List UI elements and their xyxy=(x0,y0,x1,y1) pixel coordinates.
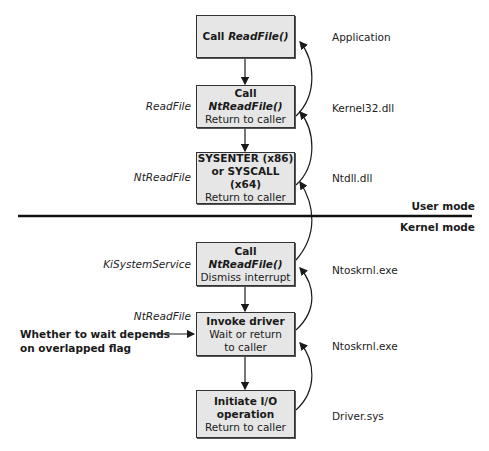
box-call-ntreadfile-user: Call NtReadFile() Return to caller xyxy=(196,85,295,128)
label-ntoskrnl-2: Ntoskrnl.exe xyxy=(332,340,398,352)
label-application: Application xyxy=(332,31,391,43)
label-driver-sys: Driver.sys xyxy=(332,410,384,422)
label-ntoskrnl-1: Ntoskrnl.exe xyxy=(332,264,398,276)
label-readfile: ReadFile xyxy=(146,100,191,112)
return-arrow-3 xyxy=(296,182,312,260)
label-kisystemservice: KiSystemService xyxy=(103,258,191,270)
return-arrow-2 xyxy=(296,112,312,185)
return-arrow-5 xyxy=(296,343,312,410)
box-invoke-driver: Invoke driver Wait or return to caller xyxy=(196,312,295,356)
label-ntreadfile-kernel: NtReadFile xyxy=(134,310,191,322)
return-arrow-1 xyxy=(296,42,312,116)
label-kernel32: Kernel32.dll xyxy=(332,102,394,114)
box-call-readfile: Call ReadFile() xyxy=(196,15,295,58)
label-ntdll: Ntdll.dll xyxy=(332,172,372,184)
label-kernel-mode: Kernel mode xyxy=(400,221,475,233)
note-overlapped-flag: Whether to wait depends on overlapped fl… xyxy=(20,327,170,355)
box-initiate-io: Initiate I/O operation Return to caller xyxy=(196,390,295,438)
box-sysenter: SYSENTER (x86) or SYSCALL (x64) Return t… xyxy=(196,152,295,204)
label-user-mode: User mode xyxy=(411,200,475,212)
label-ntreadfile-user: NtReadFile xyxy=(134,171,191,183)
return-arrow-4 xyxy=(296,268,312,330)
box-call-ntreadfile-kernel: Call NtReadFile() Dismiss interrupt xyxy=(196,242,295,286)
